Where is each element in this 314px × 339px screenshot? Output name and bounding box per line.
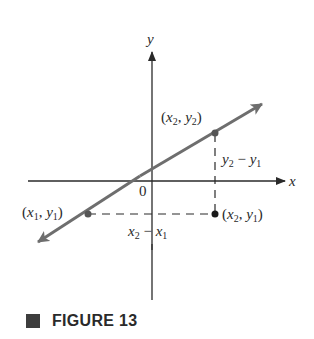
label-point-x2-y2: (x2, y2): [161, 110, 202, 127]
slope-diagram: y x 0 (x2, y2) (x1, y1) (x2, y1) y2 − y1…: [0, 0, 314, 339]
point-x2-y1: [212, 211, 219, 218]
label-point-x1-y1: (x1, y1): [22, 205, 63, 222]
point-x1-y1: [85, 211, 92, 218]
label-run: x2 − x1: [128, 224, 167, 241]
figure-caption: FIGURE 13: [26, 312, 137, 330]
point-x2-y2: [212, 130, 219, 137]
label-rise: y2 − y1: [222, 152, 261, 169]
caption-square-icon: [26, 314, 40, 328]
label-point-x2-y1: (x2, y1): [222, 207, 263, 224]
y-axis-label: y: [147, 32, 154, 47]
diagram-svg: [0, 0, 314, 339]
origin-label: 0: [139, 184, 147, 199]
x-axis-label: x: [289, 174, 296, 189]
caption-label: FIGURE 13: [52, 312, 137, 330]
